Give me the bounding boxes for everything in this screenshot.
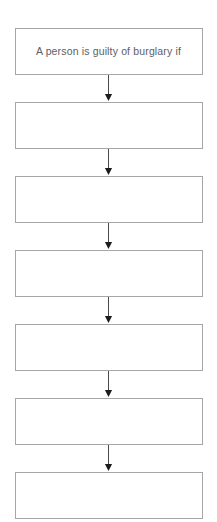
flowchart-node[interactable] xyxy=(15,472,203,519)
flowchart-node-label: A person is guilty of burglary if xyxy=(32,45,185,58)
down-arrow-icon xyxy=(100,297,117,324)
flowchart-node-stack: A person is guilty of burglary if xyxy=(0,0,217,522)
down-arrow-icon xyxy=(100,371,117,398)
down-arrow-icon xyxy=(100,223,117,250)
flowchart-node[interactable] xyxy=(15,176,203,223)
flowchart-page: A person is guilty of burglary if xyxy=(0,0,217,522)
down-arrow-icon xyxy=(100,75,117,102)
flowchart-node[interactable] xyxy=(15,398,203,445)
flowchart-node[interactable] xyxy=(15,250,203,297)
flowchart-node[interactable] xyxy=(15,324,203,371)
down-arrow-icon xyxy=(100,445,117,472)
down-arrow-icon xyxy=(100,149,117,176)
flowchart-node[interactable]: A person is guilty of burglary if xyxy=(15,28,203,75)
flowchart-node[interactable] xyxy=(15,102,203,149)
